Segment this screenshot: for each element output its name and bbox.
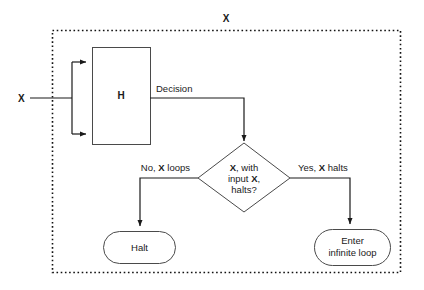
terminal-loop-label-line2: infinite loop xyxy=(328,247,376,258)
decision-diamond-line1-rest: , with xyxy=(236,162,258,173)
decision-connector xyxy=(150,98,244,141)
decision-diamond-line3: halts? xyxy=(231,184,256,195)
diagram-title-label: X xyxy=(223,13,230,24)
decision-label: Decision xyxy=(156,83,192,94)
branch-no-label-post: loops xyxy=(165,162,191,173)
decision-diamond-line2: input X, xyxy=(228,173,260,184)
machine-h-label: H xyxy=(117,90,124,101)
decision-diamond-line2-post: , xyxy=(257,173,260,184)
halting-problem-diagram: X X H Decision X, with input X, halts? N… xyxy=(0,0,424,290)
branch-yes-connector xyxy=(290,178,350,224)
terminal-halt-label: Halt xyxy=(131,242,148,253)
branch-no-label: No, X loops xyxy=(141,162,190,173)
branch-no-connector xyxy=(140,178,198,226)
terminal-loop-label-line1: Enter xyxy=(341,235,364,246)
branch-yes-label-pre: Yes, xyxy=(298,162,319,173)
decision-diamond-line1: X, with xyxy=(230,162,259,173)
branch-yes-label: Yes, X halts xyxy=(298,162,348,173)
branch-yes-label-post: halts xyxy=(325,162,348,173)
diagram-canvas: X X H Decision X, with input X, halts? N… xyxy=(0,0,424,290)
decision-diamond-line2-pre: input xyxy=(228,173,251,184)
branch-no-label-pre: No, xyxy=(141,162,158,173)
input-label: X xyxy=(18,93,25,104)
